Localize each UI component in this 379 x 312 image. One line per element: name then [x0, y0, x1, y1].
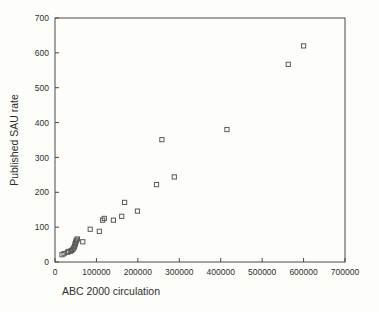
plot-frame [55, 18, 345, 262]
y-axis-title: Published SAU rate [8, 94, 20, 186]
y-axis-tick-label: 700 [35, 13, 49, 23]
y-axis-tick-label: 500 [35, 83, 49, 93]
y-axis-tick-label: 0 [44, 257, 49, 267]
x-axis-tick-label: 0 [53, 267, 58, 277]
x-axis-tick-label: 600000 [289, 267, 318, 277]
chart-canvas: 0100000200000300000400000500000600000700… [0, 0, 379, 312]
data-point-marker [135, 209, 139, 213]
data-point-marker [81, 240, 85, 244]
data-point-marker [301, 44, 305, 48]
data-point-marker [97, 229, 101, 233]
y-axis-tick-label: 400 [35, 118, 49, 128]
data-point-marker [286, 62, 290, 66]
x-axis-tick-label: 500000 [248, 267, 277, 277]
x-axis-tick-label: 700000 [331, 267, 360, 277]
x-axis-tick-label: 100000 [82, 267, 111, 277]
y-axis-tick-label: 600 [35, 48, 49, 58]
data-point-marker [172, 175, 176, 179]
y-axis-tick-label: 100 [35, 222, 49, 232]
data-point-marker [154, 183, 158, 187]
scatter-plot-figure: 0100000200000300000400000500000600000700… [0, 0, 379, 312]
y-axis-tick-label: 300 [35, 153, 49, 163]
data-point-marker [111, 218, 115, 222]
x-axis-tick-label: 400000 [207, 267, 236, 277]
x-axis-title: ABC 2000 circulation [62, 285, 160, 297]
data-point-marker [160, 138, 164, 142]
data-point-marker [120, 214, 124, 218]
x-axis-tick-label: 200000 [124, 267, 153, 277]
x-axis-tick-label: 300000 [165, 267, 194, 277]
data-point-marker [88, 227, 92, 231]
y-axis-tick-label: 200 [35, 187, 49, 197]
data-point-marker [225, 127, 229, 131]
data-point-marker [123, 200, 127, 204]
